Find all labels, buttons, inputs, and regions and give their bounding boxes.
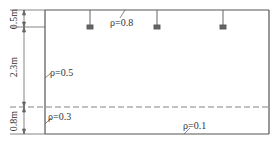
reflectance-lower-wall-label: ρ=0.3	[48, 111, 71, 122]
pendant-lamp-icon	[87, 10, 93, 29]
dim-label-ceiling-cavity: 0.5m	[8, 9, 19, 30]
arrow-icon	[23, 10, 26, 15]
dim-label-room-cavity: 2.3m	[8, 57, 19, 78]
arrow-icon	[23, 27, 26, 32]
arrow-icon	[23, 107, 26, 112]
pendant-lamp-icon	[220, 10, 226, 29]
arrow-icon	[23, 129, 26, 134]
dim-label-floor-cavity: 0.8m	[8, 111, 19, 132]
reflectance-ceiling-label: ρ=0.8	[110, 17, 133, 28]
reflectance-wall-label: ρ=0.5	[50, 67, 73, 78]
pendant-lamp-icon	[154, 10, 160, 29]
reflectance-floor-label: ρ=0.1	[183, 120, 206, 131]
luminaires	[87, 10, 226, 29]
room-section-diagram: 0.5m 2.3m 0.8m ρ=0.8 ρ=0.5 ρ=0.3 ρ=0.1	[0, 0, 274, 146]
